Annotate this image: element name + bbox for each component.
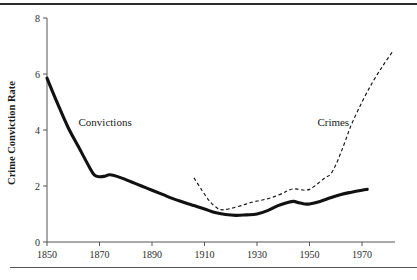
series-line-crimes [194,50,394,210]
axes-group: 024681850187018901910193019501970 [35,13,395,260]
figure-container: Crime Conviction Rate 024681850187018901… [0,0,417,280]
series-group [47,50,394,215]
y-tick-label: 8 [35,13,40,24]
y-tick-label: 6 [35,69,40,80]
x-tick-label: 1950 [300,249,320,260]
y-tick-label: 4 [35,125,40,136]
series-annotation-crimes: Crimes [317,116,349,128]
annotation-group: ConvictionsCrimes [79,116,350,128]
series-annotation-convictions: Convictions [79,116,132,128]
x-tick-label: 1850 [37,249,57,260]
y-tick-label: 2 [35,181,40,192]
x-tick-label: 1870 [90,249,110,260]
series-line-convictions [47,78,367,215]
x-tick-label: 1890 [142,249,162,260]
y-tick-label: 0 [35,237,40,248]
bottom-horizontal-rule [10,267,417,268]
x-tick-label: 1970 [352,249,372,260]
x-tick-label: 1930 [247,249,267,260]
chart-plot-area: 024681850187018901910193019501970 Convic… [0,0,417,280]
x-tick-label: 1910 [195,249,215,260]
